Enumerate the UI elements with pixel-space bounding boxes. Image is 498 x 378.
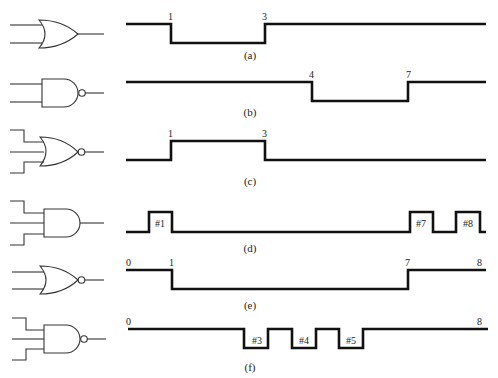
- time-label-e-1: 1: [169, 257, 174, 268]
- caption-d: (d): [244, 242, 257, 255]
- waveform-d: #1 #7 #8 (d): [126, 212, 486, 255]
- nor-gate-e: [12, 266, 104, 294]
- and-gate-d: [10, 201, 104, 245]
- nor-gate-c: [10, 130, 104, 173]
- time-label-e-7: 7: [405, 257, 410, 268]
- pulse-label-d-7: #7: [416, 218, 426, 229]
- pulse-label-f-3: #3: [252, 335, 262, 346]
- logic-gate-timing-diagram: 1 3 (a) 4 7 (b) 1 3 (c): [0, 0, 498, 378]
- nand-gate-b: [10, 79, 104, 107]
- caption-e: (e): [244, 299, 257, 312]
- nand-gate-f: [12, 318, 106, 360]
- pulse-label-f-4: #4: [299, 335, 309, 346]
- time-label-f-0: 0: [126, 316, 131, 327]
- time-label-a-1: 1: [168, 11, 173, 22]
- waveform-a: 1 3 (a): [126, 11, 486, 62]
- time-label-f-8: 8: [477, 316, 482, 327]
- pulse-label-f-5: #5: [346, 335, 356, 346]
- waveform-f: 0 8 #3 #4 #5 (f): [126, 316, 488, 374]
- or-gate-a: [10, 20, 104, 48]
- caption-a: (a): [244, 49, 257, 62]
- time-label-e-0: 0: [126, 257, 131, 268]
- time-label-c-3: 3: [262, 128, 267, 139]
- pulse-label-d-8: #8: [463, 218, 473, 229]
- waveform-b: 4 7 (b): [126, 69, 486, 119]
- waveform-e: 0 1 7 8 (e): [126, 257, 486, 312]
- time-label-b-7: 7: [406, 69, 411, 80]
- caption-f: (f): [245, 361, 256, 374]
- caption-c: (c): [244, 175, 257, 188]
- time-label-b-4: 4: [309, 69, 314, 80]
- time-label-c-1: 1: [168, 128, 173, 139]
- pulse-label-d-1: #1: [155, 218, 165, 229]
- time-label-e-8: 8: [477, 257, 482, 268]
- time-label-a-3: 3: [262, 11, 267, 22]
- waveform-c: 1 3 (c): [126, 128, 486, 188]
- caption-b: (b): [244, 106, 257, 119]
